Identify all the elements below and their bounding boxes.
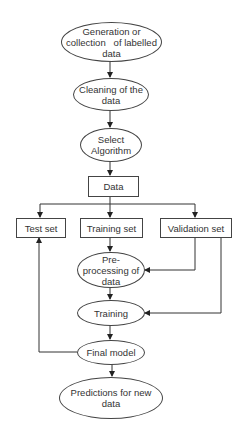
node-preprocessing: Pre- processing of data (77, 252, 145, 288)
node-preprocessing-line1: Pre- (102, 254, 120, 265)
node-test-set-label: Test set (25, 223, 58, 234)
node-predictions: Predictions for new data (59, 377, 163, 419)
node-final-model-label: Final model (86, 347, 135, 358)
node-select-line2: Algorithm (91, 145, 131, 156)
edge-validation-preprocessing (145, 237, 195, 270)
node-generation: Generation or collection of labelled dat… (61, 22, 162, 62)
node-select-algorithm: Select Algorithm (80, 128, 142, 162)
node-cleaning-line1: Cleaning of the (79, 84, 143, 95)
node-training: Training (77, 300, 145, 326)
node-validation-set: Validation set (160, 218, 232, 238)
node-cleaning-line2: data (102, 95, 121, 106)
node-generation-line3: data (102, 48, 121, 59)
node-cleaning: Cleaning of the data (73, 78, 149, 111)
node-select-line1: Select (98, 134, 124, 145)
node-generation-line2: collection of labelled (66, 37, 157, 48)
edge-validation-training (145, 237, 221, 313)
node-final-model: Final model (77, 340, 145, 365)
node-predictions-line2: data (102, 398, 121, 409)
node-data-label: Data (103, 181, 123, 192)
node-training-set-label: Training set (87, 223, 136, 234)
node-data: Data (88, 176, 139, 197)
node-preprocessing-line3: data (102, 276, 121, 287)
edge-final-test (39, 238, 77, 352)
node-preprocessing-line2: processing of (83, 265, 140, 276)
node-predictions-line1: Predictions for new (71, 387, 152, 398)
node-training-set: Training set (80, 218, 143, 238)
node-generation-line1: Generation or (82, 26, 140, 37)
node-validation-set-label: Validation set (168, 223, 224, 234)
node-training-label: Training (94, 308, 128, 319)
node-test-set: Test set (16, 218, 66, 238)
